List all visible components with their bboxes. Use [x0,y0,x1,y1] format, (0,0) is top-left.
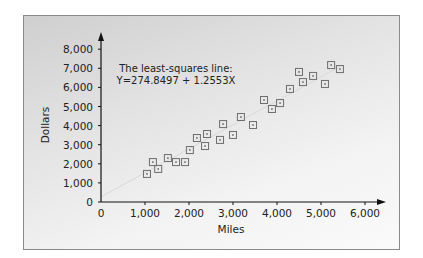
data-point-dot [312,75,314,77]
y-tick-label: 7,000 [63,62,93,74]
data-point-dot [204,145,206,147]
y-tick-label: 8,000 [63,43,93,55]
y-tick-label: 1,000 [63,177,93,189]
data-point-dot [167,157,169,159]
data-point-dot [289,88,291,90]
x-axis-title: Miles [218,223,245,235]
x-tick-label: 2,000 [174,207,204,219]
data-point-dot [146,173,148,175]
data-point-dot [232,134,234,136]
data-point-dot [339,68,341,70]
x-tick-label: 3,000 [218,207,248,219]
y-tick-label: 0 [86,196,93,208]
data-point-dot [157,168,159,170]
data-point-dot [298,71,300,73]
y-tick-label: 5,000 [63,101,93,113]
y-tick-label: 3,000 [63,139,93,151]
data-point-dot [175,161,177,163]
y-tick-label: 2,000 [63,158,93,170]
y-axis-title: Dollars [39,107,51,144]
x-axis-arrow-icon [377,199,386,205]
x-tick-label: 0 [98,207,105,219]
data-point-dot [279,102,281,104]
y-tick-label: 4,000 [63,120,93,132]
x-tick-label: 5,000 [306,207,336,219]
data-point-dot [219,139,221,141]
annotation-line-2: Y=274.8497 + 1.2553X [116,75,236,86]
x-tick-label: 4,000 [262,207,292,219]
data-point-dot [263,99,265,101]
data-point-dot [152,161,154,163]
data-point-dot [189,149,191,151]
annotation-line-1: The least-squares line: [118,63,232,74]
scatter-chart: 01,0002,0003,0004,0005,0006,00001,0002,0… [0,0,423,258]
data-point-dot [206,133,208,135]
x-tick-label: 6,000 [350,207,380,219]
data-point-dot [330,64,332,66]
data-point-dot [271,108,273,110]
data-point-dot [222,123,224,125]
y-tick-label: 6,000 [63,81,93,93]
data-point-dot [302,81,304,83]
data-point-dot [196,137,198,139]
y-axis-arrow-icon [98,32,104,41]
data-point-dot [240,116,242,118]
data-point-dot [252,124,254,126]
x-tick-label: 1,000 [130,207,160,219]
data-point-dot [184,161,186,163]
data-point-dot [324,83,326,85]
